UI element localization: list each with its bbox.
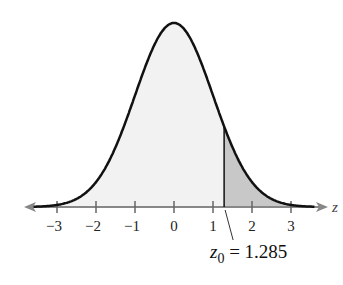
normal-curve-chart: z −3−2−10123 z0 = 1.285	[0, 0, 343, 285]
tick-label: 3	[287, 218, 295, 234]
annotation-leader-line	[225, 210, 233, 240]
tick-label: −1	[124, 218, 140, 234]
tick-label: −2	[85, 218, 101, 234]
tick-label: 0	[170, 218, 178, 234]
tick-label: 1	[209, 218, 217, 234]
tick-label: 2	[248, 218, 256, 234]
shaded-tail-area	[224, 126, 314, 207]
z0-annotation: z0 = 1.285	[209, 241, 287, 266]
axis-label: z	[331, 199, 338, 215]
tick-label: −3	[46, 218, 62, 234]
